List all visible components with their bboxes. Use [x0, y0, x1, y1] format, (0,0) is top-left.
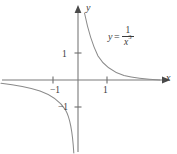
y-tick-label-1: 1: [62, 50, 67, 60]
equation-label: y = 1 x3: [108, 26, 134, 47]
function-graph-figure: y x 1 −1 1 −1 y = 1 x3: [0, 0, 177, 154]
denominator-exponent: 3: [128, 33, 131, 40]
fraction-denominator: x3: [122, 37, 133, 47]
curve-branch-negative: [1, 83, 74, 153]
graph-canvas: [0, 0, 177, 154]
x-tick-label-1: 1: [103, 86, 108, 96]
y-axis-arrowhead: [75, 5, 82, 13]
y-tick-label-negative-1: −1: [58, 103, 68, 113]
x-tick-label-negative-1: −1: [50, 86, 60, 96]
y-axis-label: y: [86, 3, 90, 13]
equation-left-side: y: [108, 32, 112, 42]
equation-equals-sign: =: [114, 32, 120, 42]
x-axis-label: x: [166, 73, 170, 83]
equation-fraction: 1 x3: [122, 26, 133, 47]
